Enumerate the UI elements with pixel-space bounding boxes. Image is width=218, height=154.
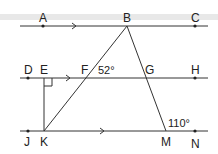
label-e: E: [40, 63, 48, 77]
label-b: B: [123, 11, 131, 25]
angle-f-label: 52°: [98, 64, 115, 76]
label-g: G: [145, 63, 154, 77]
label-d: D: [24, 63, 33, 77]
top-shading: [0, 14, 218, 20]
label-f: F: [81, 63, 88, 77]
point-j: [26, 129, 29, 132]
geometry-figure: A B C D E F 52° G H 110° J K M N: [0, 0, 218, 154]
label-h: H: [191, 63, 200, 77]
right-angle-icon: [44, 78, 52, 86]
label-n: N: [191, 137, 200, 151]
label-k: K: [40, 135, 48, 149]
label-m: M: [161, 135, 171, 149]
angle-m-label: 110°: [168, 117, 190, 129]
label-j: J: [24, 135, 30, 149]
point-n: [193, 129, 196, 132]
label-a: A: [39, 11, 47, 25]
label-c: C: [191, 11, 200, 25]
